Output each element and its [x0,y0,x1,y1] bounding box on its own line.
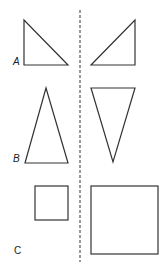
label-a: A [13,57,20,67]
triangle-b-right [91,88,135,162]
label-c: C [14,246,21,256]
triangle-a-left [24,20,68,65]
triangle-b-left [25,88,68,163]
triangle-a-right [91,20,135,65]
square-c-right [91,186,158,254]
square-c-left [35,186,68,220]
label-b: B [13,154,20,164]
reflection-diagram [0,0,166,275]
